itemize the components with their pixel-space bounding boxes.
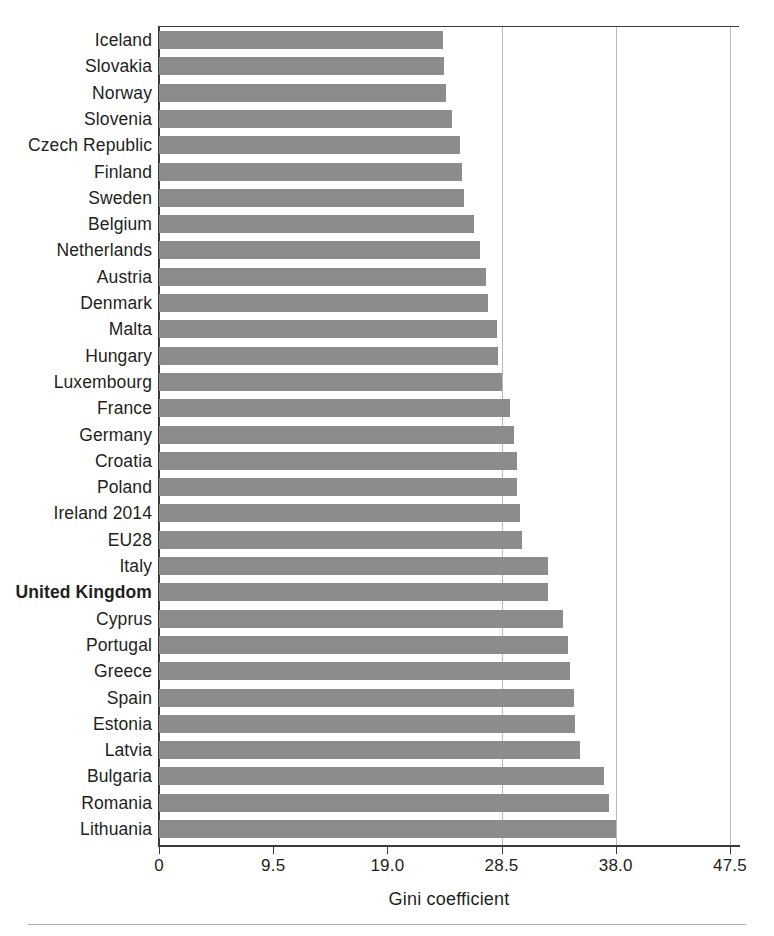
category-label: Slovakia	[4, 57, 152, 75]
x-tick-label: 47.5	[713, 856, 747, 876]
bar-row	[159, 737, 739, 763]
bar-row	[159, 106, 739, 132]
bar-row	[159, 606, 739, 632]
bar	[159, 84, 446, 102]
bar	[159, 136, 460, 154]
bar-row	[159, 685, 739, 711]
x-tick-19	[387, 845, 388, 854]
category-label: Portugal	[4, 636, 152, 654]
category-label: Bulgaria	[4, 767, 152, 785]
x-tick-38	[616, 845, 617, 854]
x-tick-47-5	[730, 845, 731, 854]
x-tick-label: 19.0	[370, 856, 404, 876]
x-tick-9-5	[273, 845, 274, 854]
category-label: Slovenia	[4, 110, 152, 128]
bar-row	[159, 790, 739, 816]
bar	[159, 636, 568, 654]
x-tick-label: 28.5	[485, 856, 519, 876]
bar-row	[159, 527, 739, 553]
bar-row	[159, 80, 739, 106]
plot-area	[159, 27, 739, 845]
bar-row	[159, 132, 739, 158]
category-label: Latvia	[4, 741, 152, 759]
bar-row	[159, 237, 739, 263]
bar	[159, 163, 462, 181]
bar-row	[159, 343, 739, 369]
bar	[159, 767, 604, 785]
bar	[159, 347, 498, 365]
category-label: Greece	[4, 662, 152, 680]
bar	[159, 715, 575, 733]
x-axis-line	[158, 845, 740, 847]
category-label: EU28	[4, 531, 152, 549]
bar	[159, 241, 480, 259]
category-label: Belgium	[4, 215, 152, 233]
bar-row	[159, 27, 739, 53]
bar	[159, 426, 514, 444]
bar-row	[159, 211, 739, 237]
category-label: Germany	[4, 426, 152, 444]
category-label: Norway	[4, 84, 152, 102]
category-label: Croatia	[4, 452, 152, 470]
bar-row	[159, 395, 739, 421]
bar	[159, 610, 563, 628]
bar	[159, 557, 548, 575]
bar-row	[159, 290, 739, 316]
category-label: Estonia	[4, 715, 152, 733]
category-label: Malta	[4, 320, 152, 338]
bar-row	[159, 474, 739, 500]
category-label: Denmark	[4, 294, 152, 312]
x-tick-0	[159, 845, 160, 854]
bar-row	[159, 579, 739, 605]
category-label: France	[4, 399, 152, 417]
bar	[159, 373, 502, 391]
category-axis-labels: IcelandSlovakiaNorwaySloveniaCzech Repub…	[0, 27, 152, 845]
bar-row	[159, 53, 739, 79]
bar	[159, 452, 517, 470]
bar	[159, 320, 497, 338]
bar	[159, 110, 452, 128]
bar-row	[159, 159, 739, 185]
bar	[159, 399, 510, 417]
gini-coefficient-bar-chart: IcelandSlovakiaNorwaySloveniaCzech Repub…	[0, 0, 774, 936]
bar-row	[159, 816, 739, 842]
bar	[159, 478, 517, 496]
category-label: Ireland 2014	[4, 504, 152, 522]
bar	[159, 504, 520, 522]
bar-row	[159, 500, 739, 526]
category-label: Lithuania	[4, 820, 152, 838]
bar	[159, 583, 548, 601]
bar	[159, 189, 464, 207]
category-label: Italy	[4, 557, 152, 575]
category-label: Poland	[4, 478, 152, 496]
x-axis-title: Gini coefficient	[159, 889, 739, 910]
bar	[159, 794, 609, 812]
bar-row	[159, 264, 739, 290]
bar	[159, 268, 486, 286]
x-tick-label: 38.0	[599, 856, 633, 876]
figure-bottom-rule	[28, 924, 746, 925]
category-label: Cyprus	[4, 610, 152, 628]
bar	[159, 57, 444, 75]
category-label: United Kingdom	[4, 583, 152, 601]
x-tick-28-5	[502, 845, 503, 854]
category-label: Luxembourg	[4, 373, 152, 391]
bar	[159, 820, 616, 838]
bar-row	[159, 422, 739, 448]
category-label: Austria	[4, 268, 152, 286]
bar-row	[159, 763, 739, 789]
x-tick-label: 9.5	[261, 856, 285, 876]
category-label: Finland	[4, 163, 152, 181]
category-label: Czech Republic	[4, 136, 152, 154]
bar-row	[159, 448, 739, 474]
bar-row	[159, 553, 739, 579]
category-label: Netherlands	[4, 241, 152, 259]
bar-row	[159, 632, 739, 658]
bar-row	[159, 185, 739, 211]
bar-row	[159, 711, 739, 737]
category-label: Sweden	[4, 189, 152, 207]
category-label: Hungary	[4, 347, 152, 365]
bar	[159, 31, 443, 49]
category-label: Spain	[4, 689, 152, 707]
bar	[159, 741, 580, 759]
